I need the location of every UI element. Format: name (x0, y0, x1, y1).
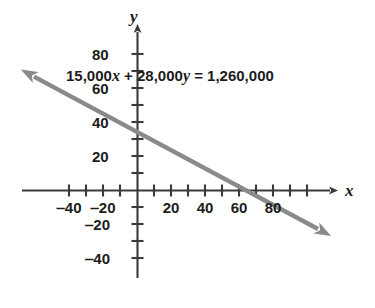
x-tick-label-40: 40 (197, 200, 214, 215)
x-tick-label-20: 20 (163, 200, 180, 215)
equation-part-coefficient-y: + 28,000 (120, 67, 183, 84)
x-tick-label-minus-40: ‒40 (56, 200, 81, 215)
x-tick-label-minus-20: ‒20 (90, 200, 115, 215)
equation-part-constant: = 1,260,000 (190, 67, 274, 84)
y-tick-label-20: 20 (92, 149, 109, 164)
y-tick-label-minus-20: ‒20 (85, 217, 110, 232)
x-axis (22, 185, 330, 197)
plot-canvas (0, 0, 375, 308)
y-axis-label: y (130, 8, 138, 25)
equation-variable-x: x (112, 67, 120, 84)
x-tick-label-60: 60 (231, 200, 248, 215)
equation-variable-y: y (183, 67, 190, 84)
x-axis-label: x (345, 182, 354, 199)
x-tick-label-80: 80 (265, 200, 282, 215)
y-tick-label-minus-40: ‒40 (85, 251, 110, 266)
coordinate-plane-figure: y x 15,000x + 28,000y = 1,260,000 80 60 … (0, 0, 375, 308)
y-tick-label-80: 80 (92, 47, 109, 62)
y-tick-label-60: 60 (92, 81, 109, 96)
y-tick-label-40: 40 (92, 115, 109, 130)
